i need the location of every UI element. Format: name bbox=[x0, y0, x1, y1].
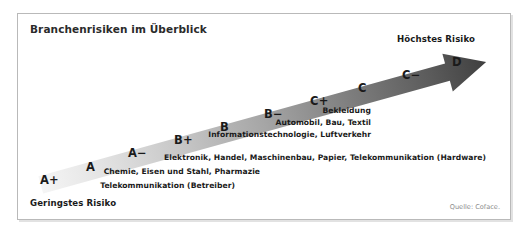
source-note: Quelle: Coface. bbox=[450, 203, 500, 211]
grade-label: A+ bbox=[40, 173, 59, 187]
grade-label: A bbox=[86, 160, 95, 174]
sector-label: Telekommunikation (Betreiber) bbox=[100, 181, 235, 190]
sector-label: Elektronik, Handel, Maschinenbau, Papier… bbox=[164, 153, 486, 162]
grade-label: A− bbox=[128, 146, 147, 160]
grade-label: B+ bbox=[174, 133, 193, 147]
sector-label: Bekleidung bbox=[322, 106, 371, 115]
sector-label: Automobil, Bau, Textil bbox=[276, 118, 371, 127]
grade-label: C− bbox=[402, 68, 420, 82]
grade-label: D bbox=[452, 55, 462, 69]
chart-frame: Branchenrisiken im Überblick A+ A A− B+ bbox=[17, 13, 511, 220]
lowest-risk-label: Geringstes Risiko bbox=[30, 198, 116, 208]
grade-label: C bbox=[358, 81, 367, 95]
highest-risk-label: Höchstes Risiko bbox=[397, 34, 475, 44]
sector-label: Chemie, Eisen und Stahl, Pharmazie bbox=[104, 167, 260, 176]
industry-risk-infographic: Branchenrisiken im Überblick A+ A A− B+ bbox=[0, 0, 532, 234]
sector-label: Informationstechnologie, Luftverkehr bbox=[208, 130, 371, 139]
